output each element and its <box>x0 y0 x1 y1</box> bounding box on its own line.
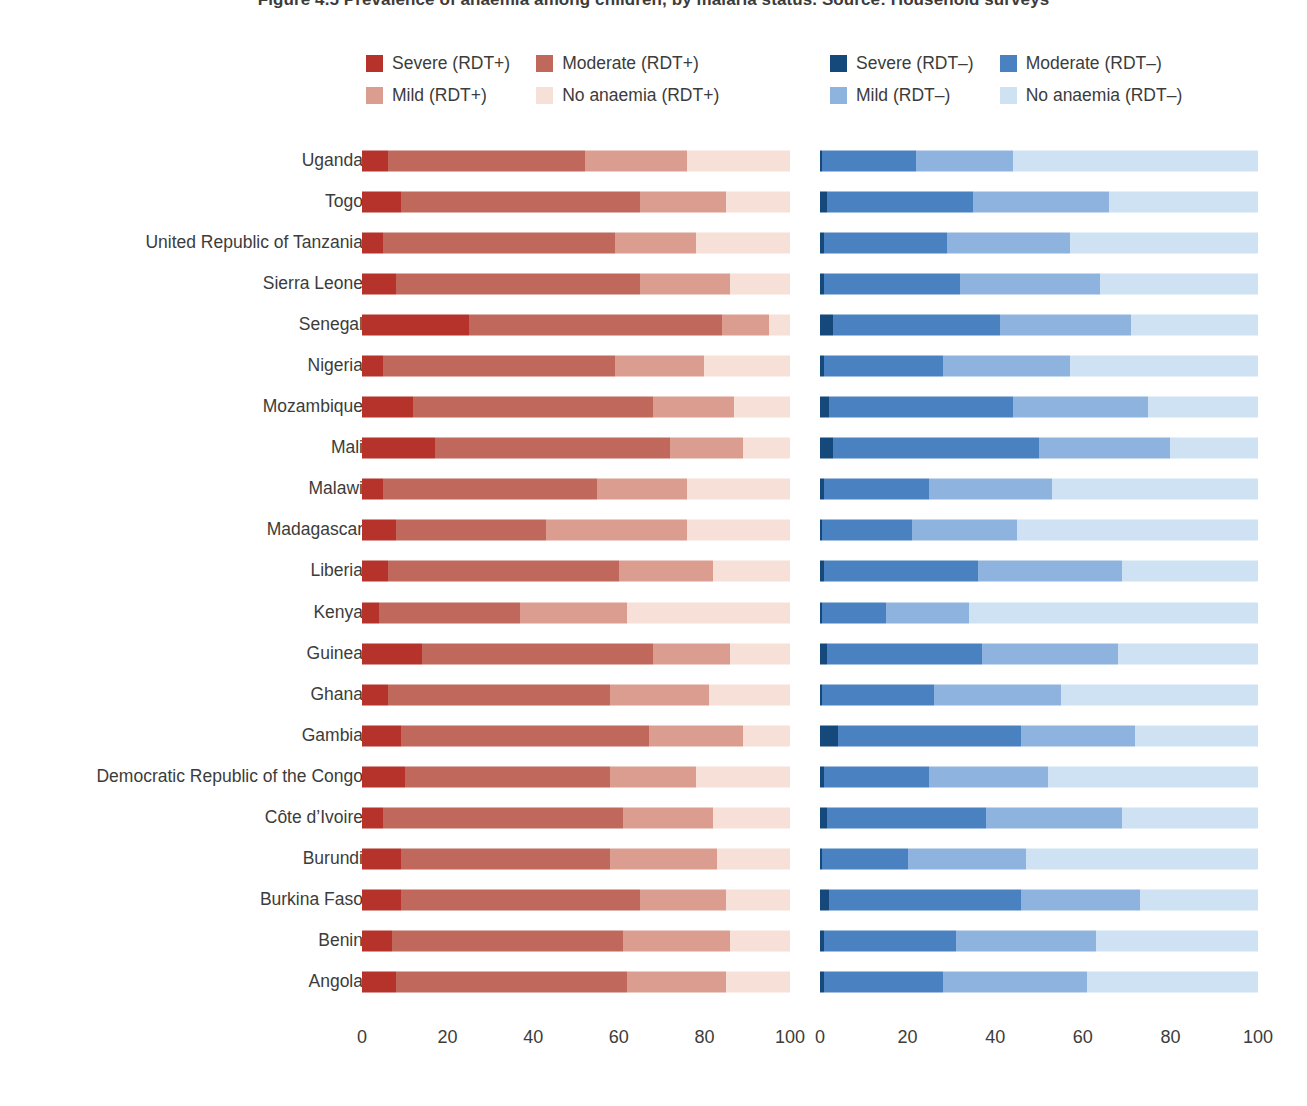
bar-segment[interactable] <box>696 766 790 787</box>
bar-segment[interactable] <box>687 479 790 500</box>
bar-segment[interactable] <box>717 849 790 870</box>
bar-segment[interactable] <box>822 684 934 705</box>
bar-segment[interactable] <box>362 808 383 829</box>
bar-segment[interactable] <box>1039 438 1170 459</box>
bar-segment[interactable] <box>820 890 829 911</box>
bar-segment[interactable] <box>623 808 713 829</box>
bar-segment[interactable] <box>709 684 790 705</box>
bar-segment[interactable] <box>1021 890 1139 911</box>
bar-segment[interactable] <box>687 150 790 171</box>
bar-segment[interactable] <box>401 890 641 911</box>
bar-segment[interactable] <box>469 314 722 335</box>
bar-segment[interactable] <box>640 191 726 212</box>
bar-segment[interactable] <box>1013 397 1149 418</box>
bar-segment[interactable] <box>687 520 790 541</box>
bar-segment[interactable] <box>401 191 641 212</box>
bar-segment[interactable] <box>820 314 833 335</box>
bar-segment[interactable] <box>929 479 1052 500</box>
bar-segment[interactable] <box>713 561 790 582</box>
bar-segment[interactable] <box>413 397 653 418</box>
bar-segment[interactable] <box>422 643 653 664</box>
bar-segment[interactable] <box>722 314 769 335</box>
bar-segment[interactable] <box>1148 397 1258 418</box>
bar-segment[interactable] <box>822 150 916 171</box>
bar-segment[interactable] <box>1118 643 1258 664</box>
bar-segment[interactable] <box>916 150 1012 171</box>
bar-segment[interactable] <box>713 808 790 829</box>
bar-segment[interactable] <box>362 849 401 870</box>
bar-segment[interactable] <box>824 232 947 253</box>
bar-segment[interactable] <box>978 561 1123 582</box>
bar-segment[interactable] <box>392 931 623 952</box>
bar-segment[interactable] <box>396 273 640 294</box>
bar-segment[interactable] <box>362 191 401 212</box>
bar-segment[interactable] <box>960 273 1100 294</box>
bar-segment[interactable] <box>362 890 401 911</box>
bar-segment[interactable] <box>362 766 405 787</box>
bar-segment[interactable] <box>649 725 743 746</box>
bar-segment[interactable] <box>824 561 977 582</box>
bar-segment[interactable] <box>1017 520 1258 541</box>
bar-segment[interactable] <box>956 931 1096 952</box>
legend-item-moderate-neg[interactable]: Moderate (RDT–) <box>1000 52 1183 75</box>
bar-segment[interactable] <box>827 191 974 212</box>
bar-segment[interactable] <box>1096 931 1258 952</box>
bar-segment[interactable] <box>1013 150 1258 171</box>
bar-segment[interactable] <box>610 849 717 870</box>
bar-segment[interactable] <box>822 602 886 623</box>
bar-segment[interactable] <box>696 232 790 253</box>
bar-segment[interactable] <box>401 725 649 746</box>
bar-segment[interactable] <box>1122 561 1258 582</box>
bar-segment[interactable] <box>908 849 1026 870</box>
bar-segment[interactable] <box>743 438 790 459</box>
bar-segment[interactable] <box>1140 890 1258 911</box>
bar-segment[interactable] <box>362 356 383 377</box>
bar-segment[interactable] <box>615 356 705 377</box>
bar-segment[interactable] <box>886 602 969 623</box>
bar-segment[interactable] <box>743 725 790 746</box>
bar-segment[interactable] <box>383 808 623 829</box>
bar-segment[interactable] <box>619 561 713 582</box>
bar-segment[interactable] <box>670 438 743 459</box>
bar-segment[interactable] <box>435 438 670 459</box>
bar-segment[interactable] <box>520 602 627 623</box>
bar-segment[interactable] <box>829 397 1013 418</box>
bar-segment[interactable] <box>610 766 696 787</box>
bar-segment[interactable] <box>362 725 401 746</box>
bar-segment[interactable] <box>730 931 790 952</box>
bar-segment[interactable] <box>829 890 1022 911</box>
bar-segment[interactable] <box>388 561 619 582</box>
bar-segment[interactable] <box>383 479 597 500</box>
bar-segment[interactable] <box>362 602 379 623</box>
bar-segment[interactable] <box>820 438 833 459</box>
bar-segment[interactable] <box>1135 725 1258 746</box>
bar-segment[interactable] <box>653 643 730 664</box>
bar-segment[interactable] <box>820 397 829 418</box>
bar-segment[interactable] <box>585 150 688 171</box>
bar-segment[interactable] <box>640 273 730 294</box>
bar-segment[interactable] <box>1170 438 1258 459</box>
bar-segment[interactable] <box>362 150 388 171</box>
bar-segment[interactable] <box>379 602 520 623</box>
bar-segment[interactable] <box>969 602 1258 623</box>
bar-segment[interactable] <box>824 931 955 952</box>
bar-segment[interactable] <box>947 232 1070 253</box>
bar-segment[interactable] <box>1021 725 1135 746</box>
bar-segment[interactable] <box>610 684 708 705</box>
bar-segment[interactable] <box>833 314 999 335</box>
bar-segment[interactable] <box>1100 273 1258 294</box>
bar-segment[interactable] <box>362 397 413 418</box>
bar-segment[interactable] <box>824 273 960 294</box>
legend-item-none-pos[interactable]: No anaemia (RDT+) <box>536 84 719 107</box>
legend-item-none-neg[interactable]: No anaemia (RDT–) <box>1000 84 1183 107</box>
bar-segment[interactable] <box>824 479 929 500</box>
bar-segment[interactable] <box>623 931 730 952</box>
bar-segment[interactable] <box>396 520 546 541</box>
bar-segment[interactable] <box>929 766 1047 787</box>
bar-segment[interactable] <box>982 643 1118 664</box>
bar-segment[interactable] <box>653 397 734 418</box>
bar-segment[interactable] <box>730 273 790 294</box>
bar-segment[interactable] <box>827 808 987 829</box>
bar-segment[interactable] <box>401 849 611 870</box>
bar-segment[interactable] <box>822 849 907 870</box>
